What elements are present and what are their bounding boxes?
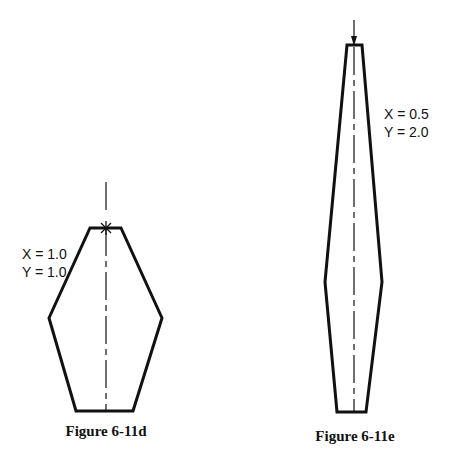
diagram-canvas: [0, 0, 449, 461]
figure-e-caption: Figure 6-11e: [315, 428, 394, 445]
figure-e-y-label: Y = 2.0: [384, 124, 429, 140]
figure-d-caption: Figure 6-11d: [66, 423, 147, 440]
load-point-icon: [99, 221, 113, 235]
figure-6-11e-shape: [325, 20, 382, 412]
figure-d-y-label: Y = 1.0: [22, 264, 67, 280]
figure-6-11d-shape: [49, 182, 162, 411]
figure-e-x-label: X = 0.5: [384, 106, 429, 122]
figure-d-x-label: X = 1.0: [22, 246, 67, 262]
